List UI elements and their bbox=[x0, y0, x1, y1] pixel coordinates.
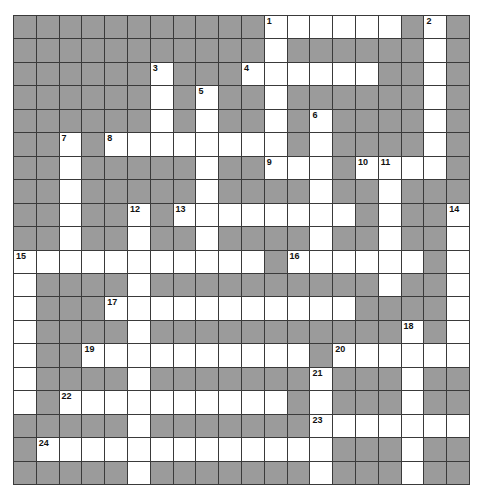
crossword-cell[interactable] bbox=[174, 391, 196, 413]
crossword-cell[interactable] bbox=[14, 391, 36, 413]
crossword-cell[interactable]: 3 bbox=[151, 63, 173, 85]
crossword-cell[interactable]: 7 bbox=[60, 133, 82, 155]
crossword-cell[interactable] bbox=[402, 391, 424, 413]
crossword-cell[interactable] bbox=[14, 368, 36, 390]
crossword-cell[interactable] bbox=[447, 321, 469, 343]
crossword-cell[interactable] bbox=[174, 438, 196, 460]
crossword-cell[interactable]: 24 bbox=[37, 438, 59, 460]
crossword-cell[interactable] bbox=[82, 251, 104, 273]
crossword-cell[interactable] bbox=[128, 297, 150, 319]
crossword-cell[interactable] bbox=[447, 274, 469, 296]
crossword-cell[interactable] bbox=[105, 344, 127, 366]
crossword-cell[interactable] bbox=[242, 297, 264, 319]
crossword-cell[interactable] bbox=[402, 462, 424, 484]
crossword-cell[interactable] bbox=[219, 204, 241, 226]
crossword-cell[interactable] bbox=[310, 180, 332, 202]
crossword-cell[interactable] bbox=[379, 227, 401, 249]
crossword-cell[interactable] bbox=[14, 274, 36, 296]
crossword-cell[interactable] bbox=[242, 344, 264, 366]
crossword-cell[interactable] bbox=[356, 63, 378, 85]
crossword-cell[interactable] bbox=[447, 297, 469, 319]
crossword-cell[interactable] bbox=[196, 227, 218, 249]
crossword-cell[interactable] bbox=[288, 344, 310, 366]
crossword-cell[interactable] bbox=[402, 157, 424, 179]
crossword-cell[interactable]: 18 bbox=[402, 321, 424, 343]
crossword-cell[interactable]: 20 bbox=[333, 344, 355, 366]
crossword-cell[interactable] bbox=[128, 344, 150, 366]
crossword-cell[interactable] bbox=[219, 391, 241, 413]
crossword-cell[interactable] bbox=[447, 251, 469, 273]
crossword-cell[interactable] bbox=[219, 133, 241, 155]
crossword-cell[interactable] bbox=[379, 344, 401, 366]
crossword-cell[interactable] bbox=[379, 16, 401, 38]
crossword-cell[interactable] bbox=[310, 227, 332, 249]
crossword-cell[interactable] bbox=[310, 251, 332, 273]
crossword-cell[interactable] bbox=[196, 344, 218, 366]
crossword-cell[interactable] bbox=[288, 16, 310, 38]
crossword-cell[interactable] bbox=[128, 368, 150, 390]
crossword-cell[interactable]: 5 bbox=[196, 86, 218, 108]
crossword-cell[interactable] bbox=[151, 133, 173, 155]
crossword-cell[interactable]: 4 bbox=[242, 63, 264, 85]
crossword-cell[interactable] bbox=[402, 344, 424, 366]
crossword-cell[interactable] bbox=[310, 438, 332, 460]
crossword-cell[interactable]: 12 bbox=[128, 204, 150, 226]
crossword-cell[interactable] bbox=[151, 110, 173, 132]
crossword-cell[interactable] bbox=[105, 438, 127, 460]
crossword-cell[interactable] bbox=[424, 415, 446, 437]
crossword-cell[interactable] bbox=[219, 251, 241, 273]
crossword-cell[interactable] bbox=[128, 462, 150, 484]
crossword-cell[interactable]: 15 bbox=[14, 251, 36, 273]
crossword-cell[interactable] bbox=[265, 438, 287, 460]
crossword-cell[interactable] bbox=[196, 110, 218, 132]
crossword-cell[interactable] bbox=[128, 438, 150, 460]
crossword-cell[interactable]: 19 bbox=[82, 344, 104, 366]
crossword-cell[interactable] bbox=[356, 251, 378, 273]
crossword-cell[interactable] bbox=[402, 415, 424, 437]
crossword-cell[interactable] bbox=[379, 274, 401, 296]
crossword-cell[interactable]: 17 bbox=[105, 297, 127, 319]
crossword-cell[interactable] bbox=[265, 297, 287, 319]
crossword-cell[interactable] bbox=[128, 391, 150, 413]
crossword-cell[interactable] bbox=[333, 63, 355, 85]
crossword-cell[interactable] bbox=[196, 391, 218, 413]
crossword-cell[interactable] bbox=[310, 462, 332, 484]
crossword-cell[interactable] bbox=[174, 297, 196, 319]
crossword-cell[interactable] bbox=[356, 344, 378, 366]
crossword-cell[interactable] bbox=[310, 297, 332, 319]
crossword-cell[interactable] bbox=[196, 438, 218, 460]
crossword-cell[interactable] bbox=[310, 63, 332, 85]
crossword-cell[interactable] bbox=[356, 16, 378, 38]
crossword-cell[interactable] bbox=[37, 251, 59, 273]
crossword-cell[interactable] bbox=[288, 157, 310, 179]
crossword-cell[interactable] bbox=[424, 39, 446, 61]
crossword-cell[interactable] bbox=[196, 180, 218, 202]
crossword-cell[interactable] bbox=[265, 391, 287, 413]
crossword-cell[interactable] bbox=[265, 110, 287, 132]
crossword-cell[interactable] bbox=[128, 274, 150, 296]
crossword-cell[interactable] bbox=[333, 251, 355, 273]
crossword-cell[interactable]: 9 bbox=[265, 157, 287, 179]
crossword-cell[interactable]: 13 bbox=[174, 204, 196, 226]
crossword-cell[interactable] bbox=[242, 133, 264, 155]
crossword-cell[interactable] bbox=[447, 415, 469, 437]
crossword-cell[interactable] bbox=[60, 157, 82, 179]
crossword-cell[interactable] bbox=[288, 63, 310, 85]
crossword-cell[interactable] bbox=[265, 344, 287, 366]
crossword-cell[interactable] bbox=[151, 86, 173, 108]
crossword-cell[interactable] bbox=[196, 133, 218, 155]
crossword-cell[interactable] bbox=[424, 344, 446, 366]
crossword-cell[interactable] bbox=[174, 251, 196, 273]
crossword-cell[interactable]: 6 bbox=[310, 110, 332, 132]
crossword-cell[interactable] bbox=[265, 86, 287, 108]
crossword-cell[interactable] bbox=[310, 133, 332, 155]
crossword-cell[interactable] bbox=[333, 415, 355, 437]
crossword-cell[interactable] bbox=[14, 321, 36, 343]
crossword-cell[interactable] bbox=[424, 110, 446, 132]
crossword-cell[interactable] bbox=[265, 39, 287, 61]
crossword-cell[interactable] bbox=[151, 251, 173, 273]
crossword-cell[interactable] bbox=[356, 415, 378, 437]
crossword-cell[interactable] bbox=[219, 438, 241, 460]
crossword-cell[interactable]: 22 bbox=[60, 391, 82, 413]
crossword-cell[interactable] bbox=[288, 204, 310, 226]
